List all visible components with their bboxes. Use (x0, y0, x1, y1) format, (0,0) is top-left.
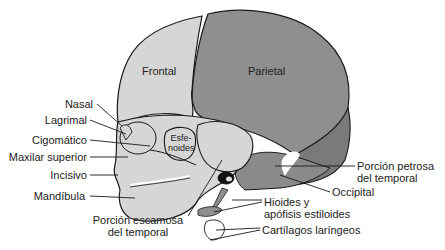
label-lagrimal: Lagrimal (45, 114, 87, 126)
label-porcion-escamosa-line1: Porción escamosa (88, 214, 188, 226)
label-parietal: Parietal (248, 65, 285, 77)
ear-highlight (226, 177, 232, 182)
label-esfenoides: Esfe- noides (168, 133, 194, 153)
label-hioides-line1: Hioides y (264, 196, 350, 208)
label-mandibula: Mandíbula (34, 190, 85, 202)
label-porcion-escamosa-line2: del temporal (88, 226, 188, 238)
label-porcion-petrosa: Porción petrosa del temporal (357, 160, 434, 184)
label-porcion-petrosa-line1: Porción petrosa (357, 160, 434, 172)
label-hioides-line2: apófisis estiloides (264, 208, 350, 220)
label-esfenoides-line1: Esfe- (168, 133, 194, 143)
label-maxilar-superior: Maxilar superior (9, 151, 87, 163)
label-hioides: Hioides y apófisis estiloides (264, 196, 350, 220)
label-porcion-escamosa: Porción escamosa del temporal (88, 214, 188, 238)
label-incisivo: Incisivo (50, 169, 87, 181)
label-frontal: Frontal (142, 65, 176, 77)
label-porcion-petrosa-line2: del temporal (357, 172, 434, 184)
label-nasal: Nasal (65, 98, 93, 110)
label-esfenoides-line2: noides (168, 143, 194, 153)
label-cartilagos: Cartílagos laríngeos (262, 224, 360, 236)
label-cigomatico: Cigomático (32, 134, 87, 146)
